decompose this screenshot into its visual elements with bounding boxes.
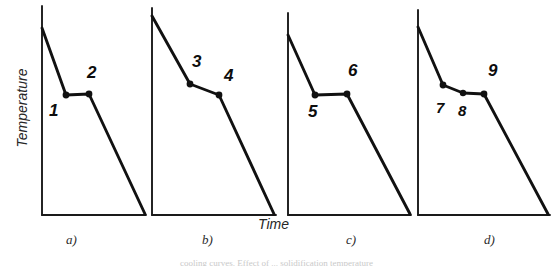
- panel-c-point-6: [344, 91, 351, 98]
- point-label-1: 1: [49, 102, 58, 119]
- panel-a-point-2: [86, 91, 93, 98]
- panel-b-point-3: [187, 81, 194, 88]
- panel-c-caption: c): [346, 232, 356, 248]
- panel-b: 3 4 b): [140, 0, 280, 232]
- bottom-cutoff-caption: cooling curves. Effect of ... solidifica…: [0, 258, 553, 266]
- point-label-8: 8: [458, 103, 466, 118]
- panel-d-caption: d): [484, 232, 495, 248]
- panel-d-point-7: [440, 82, 447, 89]
- point-label-7: 7: [436, 100, 444, 115]
- point-label-5: 5: [308, 103, 317, 120]
- point-label-4: 4: [224, 67, 233, 84]
- panel-d-chart: [400, 0, 553, 232]
- panel-b-point-4: [216, 92, 223, 99]
- panel-d: 7 8 9 d): [400, 0, 553, 232]
- panel-a-chart: [0, 0, 150, 232]
- panel-b-caption: b): [202, 232, 213, 248]
- panel-b-chart: [140, 0, 280, 232]
- point-label-9: 9: [488, 62, 497, 79]
- point-label-2: 2: [87, 64, 96, 81]
- point-label-6: 6: [348, 62, 357, 79]
- panel-a-curve: [42, 28, 145, 214]
- panel-d-curve: [418, 27, 548, 214]
- panel-c-point-5: [312, 92, 319, 99]
- panel-a-caption: a): [66, 232, 77, 248]
- figure-root: Temperature Time 1 2 a) 3 4 b): [0, 0, 553, 266]
- point-label-3: 3: [192, 53, 201, 70]
- panel-d-point-8: [460, 90, 466, 96]
- panel-c-chart: [270, 0, 415, 232]
- panel-a-point-1: [63, 92, 70, 99]
- panel-b-curve: [152, 16, 274, 214]
- panel-d-point-9: [481, 91, 488, 98]
- panel-c: 5 6 c): [270, 0, 415, 232]
- panel-a: 1 2 a): [0, 0, 150, 232]
